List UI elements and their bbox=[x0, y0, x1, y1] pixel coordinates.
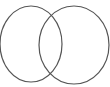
venn-diagram bbox=[0, 0, 110, 87]
left-set-circle bbox=[0, 6, 62, 82]
right-set-circle bbox=[39, 6, 109, 84]
